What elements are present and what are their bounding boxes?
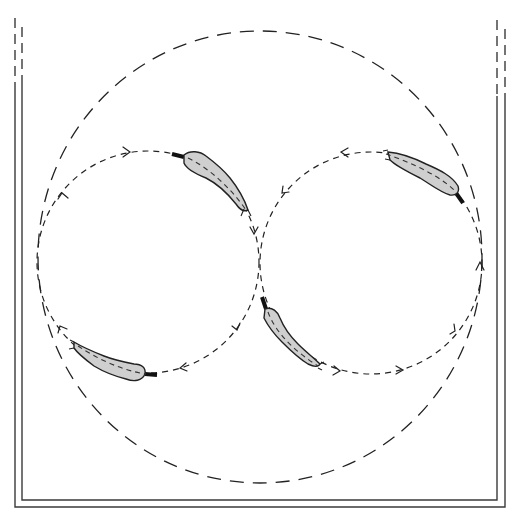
arrow-up-left-icon	[58, 326, 67, 333]
fish-3	[69, 340, 157, 381]
fish-2	[383, 150, 463, 203]
inner-wall	[22, 80, 497, 500]
fish-body	[74, 342, 145, 381]
fish-4	[262, 297, 324, 370]
tank-walls	[15, 18, 505, 507]
arrow-down-left-icon	[282, 186, 289, 193]
fish-head-icon	[456, 193, 463, 203]
direction-arrows	[58, 147, 484, 375]
diagram-canvas	[0, 0, 521, 524]
fish-body	[264, 308, 320, 366]
arrow-up-right-icon	[58, 193, 68, 199]
fish-1	[172, 152, 251, 216]
arrow-down-left-icon	[232, 323, 240, 330]
arrow-up-icon	[476, 262, 484, 270]
outer-wall	[15, 88, 505, 507]
fish-swimming-diagram	[0, 0, 521, 524]
arrow-right-icon	[123, 147, 130, 157]
fish-head-icon	[172, 154, 184, 157]
fish-body	[184, 152, 248, 211]
arrow-up-right-icon	[450, 324, 455, 334]
fish-head-icon	[145, 374, 157, 375]
